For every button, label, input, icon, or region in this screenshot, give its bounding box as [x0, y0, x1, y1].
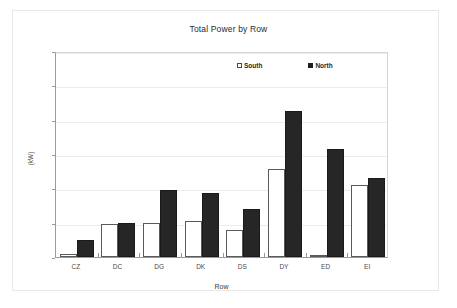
bar-north-cz — [77, 240, 94, 257]
bar-south-dc — [101, 224, 118, 257]
x-axis-tick-mark — [347, 253, 348, 257]
bar-south-ds — [226, 230, 243, 257]
bar-south-cz — [60, 254, 77, 257]
bar-south-dk — [185, 221, 202, 257]
bar-group — [347, 53, 389, 257]
plot-area — [55, 52, 388, 258]
hollow-square-icon — [237, 63, 242, 68]
chart-legend: SouthNorth — [237, 62, 333, 69]
y-axis-tick-mark — [52, 258, 55, 259]
legend-label: North — [315, 62, 332, 69]
chart-screenshot: Total Power by Row (kW) 020406080100120 … — [0, 0, 457, 308]
bar-north-ds — [243, 209, 260, 257]
x-axis-tick-label: DY — [263, 263, 305, 270]
chart-title: Total Power by Row — [0, 24, 457, 34]
bar-group — [306, 53, 348, 257]
bar-south-dg — [143, 223, 160, 257]
legend-entry-south: South — [237, 62, 262, 69]
y-axis-title: (kW) — [27, 152, 34, 166]
bar-north-ed — [327, 149, 344, 257]
bar-group — [181, 53, 223, 257]
bar-group — [56, 53, 98, 257]
bar-group — [98, 53, 140, 257]
x-axis-tick-mark — [181, 253, 182, 257]
x-axis-tick-label: EI — [346, 263, 388, 270]
legend-entry-north: North — [308, 62, 332, 69]
x-axis-tick-label: DG — [138, 263, 180, 270]
x-axis-tick-mark — [223, 253, 224, 257]
x-axis-tick-label: ED — [305, 263, 347, 270]
x-axis-tick-label: CZ — [55, 263, 97, 270]
bar-north-ei — [368, 178, 385, 257]
bar-north-dg — [160, 190, 177, 257]
bar-group — [264, 53, 306, 257]
legend-label: South — [244, 62, 262, 69]
bar-north-dc — [118, 223, 135, 257]
filled-square-icon — [308, 63, 313, 68]
bar-south-ei — [351, 185, 368, 257]
bar-south-ed — [310, 255, 327, 257]
x-axis-tick-label: DS — [221, 263, 263, 270]
bar-north-dk — [202, 193, 219, 257]
bar-south-dy — [268, 169, 285, 257]
x-axis-tick-mark — [306, 253, 307, 257]
bar-north-dy — [285, 111, 302, 257]
bar-group — [223, 53, 265, 257]
x-axis-tick-mark — [264, 253, 265, 257]
x-axis-tick-label: DK — [180, 263, 222, 270]
x-axis-tick-label: DC — [96, 263, 138, 270]
x-axis-tick-mark — [98, 253, 99, 257]
x-axis-title: Row — [55, 283, 388, 290]
x-axis-tick-mark — [139, 253, 140, 257]
bar-group — [139, 53, 181, 257]
